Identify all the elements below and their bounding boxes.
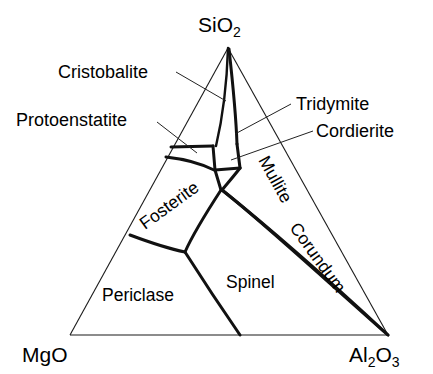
ternary-diagram-svg: SiO2 MgO Al2O3 Periclase Spinel Fosterit… [0,0,433,374]
boundary-spinel-corundum [222,190,388,335]
boundary-cordierite-to-triple-point [215,170,221,190]
callout-labels: Cristobalite Protoenstatite Tridymite Co… [16,62,394,141]
leader-tridymite [235,104,291,134]
ternary-phase-diagram: SiO2 MgO Al2O3 Periclase Spinel Fosterit… [0,0,433,374]
sio2-main-text: SiO [198,13,233,36]
boundary-cordierite-right [237,144,240,168]
corner-label-sio2: SiO2 [198,13,241,40]
boundary-protoenstatite-fosterite [166,157,214,170]
boundary-fosterite-periclase [130,235,185,252]
boundary-cordierite-bottom [215,168,240,170]
sio2-subscript: 2 [233,24,241,40]
field-label-corundum: Corundum [286,219,350,297]
callout-label-tridymite: Tridymite [296,94,369,114]
boundary-protoenstatite-top [171,146,213,147]
boundary-periclase-spinel [185,252,240,335]
callout-label-cordierite: Cordierite [316,121,394,141]
boundary-cordierite-left [213,146,215,170]
field-labels: Periclase Spinel Fosterite Mullite Corun… [102,152,350,305]
corner-label-mgo: MgO [22,343,68,366]
callout-label-cristobalite: Cristobalite [58,62,148,82]
al2o3-subscript-2: 3 [392,354,400,370]
boundary-tridymite-mullite [229,49,237,144]
al2o3-subscript-1: 2 [368,354,376,370]
mgo-text: MgO [22,343,68,366]
al2o3-al-text: Al [349,343,368,366]
al2o3-o-text: O [375,343,391,366]
callout-label-protoenstatite: Protoenstatite [16,110,127,130]
field-label-spinel: Spinel [226,272,275,292]
boundary-cordierite-right-to-triple-point [222,168,240,190]
boundary-cristobalite-tridymite [216,48,228,146]
field-label-periclase: Periclase [102,285,174,305]
field-label-fosterite: Fosterite [136,177,203,233]
corner-label-al2o3: Al2O3 [349,343,400,370]
